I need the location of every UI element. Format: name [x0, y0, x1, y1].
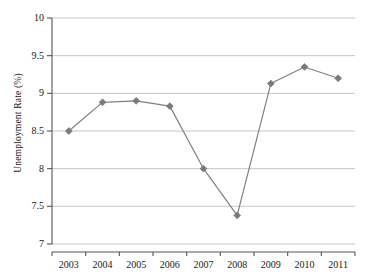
data-point-marker	[166, 103, 173, 110]
axis-lines	[52, 18, 355, 252]
data-point-markers	[65, 64, 341, 219]
data-point-marker	[267, 80, 274, 87]
data-point-marker	[133, 97, 140, 104]
x-axis-ticks	[52, 252, 355, 256]
unemployment-rate-line-chart: Unemployment Rate (%) 109.598.587.57 200…	[0, 0, 366, 277]
data-point-marker	[335, 75, 342, 82]
data-line-series-unemployment-rate	[69, 67, 338, 215]
plot-area	[0, 0, 366, 277]
gridlines	[52, 18, 355, 244]
data-point-marker	[301, 64, 308, 71]
y-axis-ticks	[47, 18, 52, 244]
